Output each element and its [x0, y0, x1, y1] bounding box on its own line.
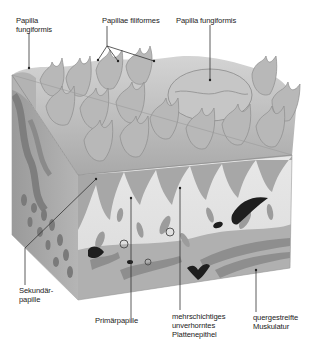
label-muskulatur: quergestreifte Muskulatur — [253, 313, 298, 331]
block-front-face — [70, 150, 301, 310]
tongue-mucosa-figure: Papilla fungiformis Papillae filiformes … — [0, 0, 315, 341]
label-papilla-fungiformis-right: Papilla fungiformis — [176, 16, 236, 25]
label-plattenepithel: mehrschichtiges unverhorntes Plattenepit… — [172, 312, 225, 339]
label-primaerpapille: Primärpapille — [95, 316, 138, 325]
label-papilla-fungiformis-left: Papilla fungiformis — [16, 16, 52, 34]
label-papillae-filiformes: Papillae filiformes — [102, 16, 160, 25]
label-sekundaerpapille: Sekundär- papille — [19, 286, 53, 304]
